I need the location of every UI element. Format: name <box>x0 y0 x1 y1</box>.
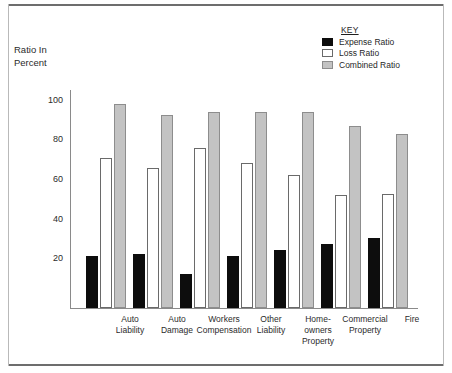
bar-combined-ratio <box>349 126 361 308</box>
y-axis-line <box>70 90 71 308</box>
bar-expense-ratio <box>321 244 333 308</box>
bar-expense-ratio <box>86 256 98 308</box>
bar-chart-figure: Ratio In Percent KEY Expense Ratio Loss … <box>0 0 452 373</box>
bar-loss-ratio <box>335 195 347 308</box>
legend-label-combined-ratio: Combined Ratio <box>339 60 400 71</box>
y-axis-title: Ratio In Percent <box>14 44 74 69</box>
figure-bottom-rule <box>8 364 444 366</box>
legend-swatch-combined-ratio <box>322 61 333 69</box>
legend-swatch-expense-ratio <box>322 38 333 46</box>
legend-item-combined-ratio: Combined Ratio <box>322 60 400 71</box>
x-axis-category-label-line: Property <box>327 325 403 336</box>
bar-combined-ratio <box>161 115 173 308</box>
legend: KEY Expense Ratio Loss Ratio Combined Ra… <box>322 25 400 71</box>
bar-loss-ratio <box>147 168 159 308</box>
y-axis-tick-label: 80 <box>53 134 63 144</box>
y-axis-tick-label: 100 <box>48 95 63 105</box>
legend-title: KEY <box>341 25 400 36</box>
bar-expense-ratio <box>227 256 239 308</box>
plot-area: 20406080100 AutoLiabilityAutoDamageWorke… <box>70 90 418 308</box>
y-axis-title-line-2: Percent <box>14 57 74 70</box>
figure-top-rule <box>8 4 444 6</box>
bar-loss-ratio <box>100 158 112 308</box>
bar-loss-ratio <box>382 194 394 308</box>
legend-label-loss-ratio: Loss Ratio <box>339 48 379 59</box>
bar-combined-ratio <box>396 134 408 308</box>
x-axis-category-label: Fire <box>374 314 450 325</box>
bar-combined-ratio <box>114 104 126 308</box>
figure-left-border <box>8 4 9 366</box>
x-axis-category-label-line: Property <box>280 336 356 347</box>
bar-expense-ratio <box>274 250 286 308</box>
figure-right-border <box>443 4 444 366</box>
legend-item-loss-ratio: Loss Ratio <box>322 48 400 59</box>
bar-loss-ratio <box>194 148 206 308</box>
x-axis-category-label-line: Fire <box>374 314 450 325</box>
bar-expense-ratio <box>133 254 145 309</box>
bar-combined-ratio <box>302 112 314 308</box>
legend-swatch-loss-ratio <box>322 49 333 57</box>
y-axis-title-line-1: Ratio In <box>14 44 74 57</box>
bar-expense-ratio <box>368 238 380 308</box>
y-axis-tick-label: 20 <box>53 253 63 263</box>
bar-combined-ratio <box>255 112 267 308</box>
x-axis-line <box>70 308 418 309</box>
bar-loss-ratio <box>288 175 300 308</box>
bar-expense-ratio <box>180 274 192 308</box>
bar-combined-ratio <box>208 112 220 308</box>
y-axis-tick-label: 40 <box>53 214 63 224</box>
legend-label-expense-ratio: Expense Ratio <box>339 37 394 48</box>
bar-loss-ratio <box>241 163 253 308</box>
legend-item-expense-ratio: Expense Ratio <box>322 37 400 48</box>
y-axis-tick-label: 60 <box>53 174 63 184</box>
